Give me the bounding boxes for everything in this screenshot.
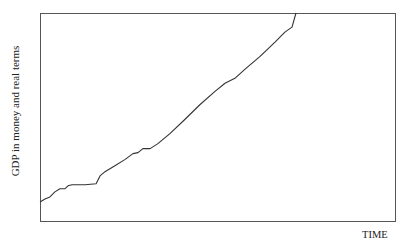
y-axis-label: GDP in money and real terms bbox=[8, 0, 22, 221]
line-chart bbox=[0, 0, 413, 244]
plot-frame bbox=[41, 14, 396, 222]
x-axis-label: TIME bbox=[362, 229, 388, 240]
y-axis-label-text: GDP in money and real terms bbox=[9, 45, 21, 176]
gdp-line bbox=[40, 13, 296, 202]
